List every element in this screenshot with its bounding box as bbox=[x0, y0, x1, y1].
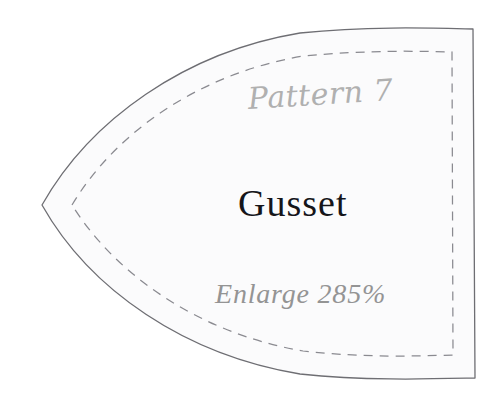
piece-name-label: Gusset bbox=[238, 184, 347, 222]
pattern-sheet: Pattern 7 Gusset Enlarge 285% bbox=[0, 0, 501, 409]
pattern-number-label: Pattern 7 bbox=[247, 75, 394, 114]
enlarge-instruction-label: Enlarge 285% bbox=[215, 280, 386, 308]
